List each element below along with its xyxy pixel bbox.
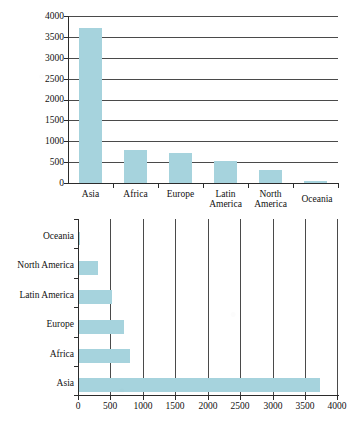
category-line-1: Europe: [158, 189, 203, 200]
gridline-500: [110, 219, 111, 395]
y-category-label-asia: Asia: [4, 378, 74, 388]
y-tick-mark: [64, 120, 68, 121]
x-tick-mark: [208, 396, 209, 400]
x-category-label-latin-america: Latin America: [203, 189, 248, 209]
top-y-axis: [68, 16, 69, 184]
category-line-1: Africa: [113, 189, 158, 200]
y-tick-mark: [74, 219, 78, 220]
x-tick-label: 3500: [287, 401, 323, 412]
category-line-2: America: [248, 199, 293, 209]
gridline-3000: [68, 58, 338, 59]
bar-europe: [169, 153, 192, 183]
gridline-3500: [68, 37, 338, 38]
x-tick-label: 4000: [319, 401, 348, 412]
bar-latin-america: [214, 161, 237, 183]
x-category-label-north-america: North America: [248, 189, 293, 209]
y-tick-label: 2500: [28, 74, 64, 84]
y-tick-mark: [64, 162, 68, 163]
gridline-1000: [68, 141, 338, 142]
y-tick-mark: [64, 79, 68, 80]
y-tick-label: 1500: [28, 115, 64, 125]
bar-africa: [78, 349, 130, 363]
y-tick-mark: [74, 366, 78, 367]
y-category-label-north-america: North America: [4, 260, 74, 270]
gridline-1500: [175, 219, 176, 395]
x-tick-mark: [293, 184, 294, 188]
figure-two-bar-charts: 4000 3500 3000 2500 2000 1500 1000 500 0: [0, 0, 348, 425]
y-tick-label: 500: [28, 157, 64, 167]
y-category-label-latin-america: Latin America: [4, 290, 74, 300]
bar-asia: [79, 28, 102, 183]
x-tick-mark: [337, 396, 338, 400]
x-tick-mark: [110, 396, 111, 400]
gridline-3000: [273, 219, 274, 395]
y-tick-mark: [64, 100, 68, 101]
x-tick-label: 500: [92, 401, 128, 412]
gridline-3500: [305, 219, 306, 395]
y-category-label-oceania: Oceania: [4, 231, 74, 241]
x-tick-label: 2000: [190, 401, 226, 412]
x-category-label-europe: Europe: [158, 189, 203, 200]
y-tick-mark: [64, 183, 68, 184]
x-category-label-africa: Africa: [113, 189, 158, 200]
gridline-4000: [68, 16, 338, 17]
y-category-label-africa: Africa: [4, 349, 74, 359]
y-tick-mark: [64, 16, 68, 17]
category-line-1: Oceania: [291, 194, 343, 205]
bar-africa: [124, 150, 147, 183]
y-tick-label: 3500: [28, 32, 64, 42]
x-tick-mark: [305, 396, 306, 400]
x-tick-label: 0: [60, 401, 96, 412]
x-tick-mark: [175, 396, 176, 400]
gridline-2500: [68, 79, 338, 80]
y-tick-mark: [74, 278, 78, 279]
y-tick-label: 4000: [28, 11, 64, 21]
vertical-bar-chart: 4000 3500 3000 2500 2000 1500 1000 500 0: [0, 0, 348, 212]
x-tick-mark: [273, 396, 274, 400]
y-tick-mark: [64, 37, 68, 38]
y-tick-label: 0: [28, 178, 64, 188]
y-tick-mark: [64, 58, 68, 59]
gridline-1000: [143, 219, 144, 395]
gridline-2500: [240, 219, 241, 395]
gridline-500: [68, 162, 338, 163]
x-category-label-asia: Asia: [68, 189, 113, 200]
y-tick-label: 2000: [28, 94, 64, 104]
y-tick-mark: [64, 141, 68, 142]
y-tick-mark: [74, 248, 78, 249]
x-category-label-oceania: Oceania: [291, 194, 343, 205]
y-tick-label: 1000: [28, 136, 64, 146]
x-tick-mark: [203, 184, 204, 188]
bar-latin-america: [78, 290, 112, 304]
y-tick-mark: [74, 337, 78, 338]
x-tick-label: 1500: [157, 401, 193, 412]
category-line-2: America: [203, 199, 248, 209]
bottom-plot-area: [78, 219, 338, 395]
x-tick-mark: [240, 396, 241, 400]
bar-europe: [78, 320, 124, 334]
bar-asia: [78, 378, 320, 392]
gridline-4000: [337, 219, 338, 395]
gridline-1500: [68, 120, 338, 121]
x-tick-mark: [338, 184, 339, 188]
gridline-2000: [208, 219, 209, 395]
x-tick-label: 3000: [255, 401, 291, 412]
gridline-2000: [68, 100, 338, 101]
top-plot-area: [68, 16, 338, 183]
x-tick-mark: [78, 396, 79, 400]
x-tick-label: 1000: [125, 401, 161, 412]
x-tick-mark: [158, 184, 159, 188]
y-tick-label: 3000: [28, 53, 64, 63]
bar-north-america: [259, 170, 282, 183]
y-tick-mark: [74, 307, 78, 308]
category-line-1: Latin: [203, 189, 248, 199]
bar-north-america: [78, 261, 98, 275]
y-category-label-europe: Europe: [4, 319, 74, 329]
category-line-1: North: [248, 189, 293, 199]
bottom-y-axis: [78, 219, 79, 396]
x-tick-mark: [143, 396, 144, 400]
x-tick-label: 2500: [222, 401, 258, 412]
category-line-1: Asia: [68, 189, 113, 200]
horizontal-bar-chart: Oceania North America Latin America Euro…: [0, 215, 348, 425]
x-tick-mark: [248, 184, 249, 188]
